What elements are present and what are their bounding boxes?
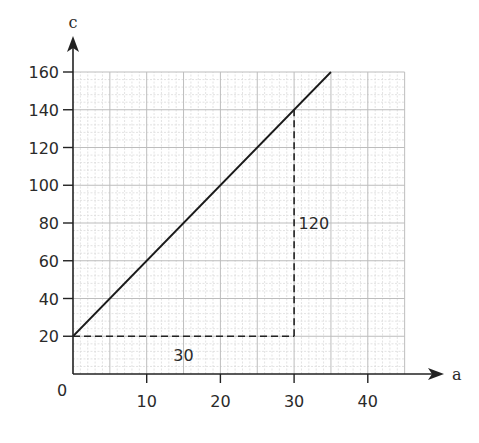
y-tick-label: 20 <box>39 327 59 346</box>
annotation-lines: 30120 <box>73 110 329 365</box>
data-series <box>73 72 331 336</box>
y-axis-label: c <box>69 13 78 32</box>
x-tick-label: 20 <box>210 392 230 411</box>
axes <box>63 36 444 383</box>
run-label: 30 <box>173 346 193 365</box>
y-tick-label: 160 <box>28 63 59 82</box>
origin-label: 0 <box>57 381 67 400</box>
y-tick-label: 120 <box>28 139 59 158</box>
y-tick-label: 100 <box>28 176 59 195</box>
rise-label: 120 <box>299 214 330 233</box>
y-tick-label: 80 <box>39 214 59 233</box>
x-tick-label: 40 <box>358 392 378 411</box>
line-chart: 30120 10203040204060801001201401600ac <box>0 0 479 443</box>
y-tick-label: 40 <box>39 290 59 309</box>
x-tick-label: 10 <box>137 392 157 411</box>
x-tick-label: 30 <box>284 392 304 411</box>
y-tick-label: 60 <box>39 252 59 271</box>
y-tick-label: 140 <box>28 101 59 120</box>
data-line <box>73 72 331 336</box>
x-axis-label: a <box>452 365 462 384</box>
